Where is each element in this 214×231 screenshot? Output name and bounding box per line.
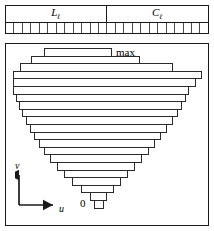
segment-c: Cℓ <box>107 6 209 23</box>
segment-l-label: Lℓ <box>51 7 60 21</box>
histogram-bar <box>94 200 104 209</box>
strip-cell <box>200 23 207 33</box>
strip-cell <box>14 23 22 33</box>
strip-cell <box>23 23 31 33</box>
histogram-panel: max 0 v u <box>5 43 209 226</box>
strip-cell <box>82 23 90 33</box>
top-panel: LℓCℓ <box>5 5 209 34</box>
strip-cell <box>91 23 99 33</box>
strip-cell <box>65 23 73 33</box>
strip-cell <box>116 23 124 33</box>
strip-cell <box>31 23 39 33</box>
axes-indicator: v u <box>15 163 67 211</box>
strip-cell <box>158 23 166 33</box>
strip-cell <box>141 23 149 33</box>
strip-cell <box>167 23 175 33</box>
zero-annotation: 0 <box>80 198 86 209</box>
strip-cell <box>74 23 82 33</box>
strip-cell <box>175 23 183 33</box>
axis-label-u: u <box>59 204 64 214</box>
strip-cell <box>133 23 141 33</box>
strip-cell <box>99 23 107 33</box>
strip-cell <box>57 23 65 33</box>
segment-l: Lℓ <box>6 6 107 23</box>
segment-row: LℓCℓ <box>6 6 208 23</box>
strip-cell <box>40 23 48 33</box>
max-annotation: max <box>116 47 135 58</box>
strip-cell <box>150 23 158 33</box>
strip-cell <box>6 23 14 33</box>
figure-page: LℓCℓ max 0 <box>0 0 214 231</box>
strip-cell <box>184 23 192 33</box>
segment-c-label: Cℓ <box>152 7 162 21</box>
cell-strip <box>6 22 208 33</box>
strip-cell <box>124 23 132 33</box>
strip-cell <box>48 23 56 33</box>
axis-label-v: v <box>15 161 19 171</box>
strip-cell <box>107 23 115 33</box>
strip-cell <box>192 23 200 33</box>
